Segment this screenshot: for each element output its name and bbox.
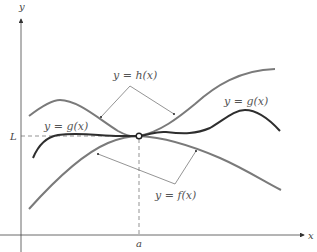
- h-leader-right: [130, 86, 174, 114]
- h-leader-left: [101, 86, 130, 117]
- squeeze-theorem-diagram: y x L a y = h(x) y = g(x) y = g(x) y = f…: [0, 0, 317, 252]
- g-curve-label-right: y = g(x): [223, 95, 268, 108]
- f-leader-left: [98, 154, 175, 184]
- g-curve-label-left: y = g(x): [43, 120, 88, 133]
- curve-g: [33, 110, 280, 158]
- limit-point-open-circle: [136, 133, 142, 139]
- y-axis-label: y: [18, 1, 25, 12]
- f-curve-label: y = f(x): [154, 189, 196, 202]
- x-axis-label: x: [308, 230, 314, 241]
- L-marker-label: L: [9, 131, 17, 142]
- h-curve-label: y = h(x): [112, 69, 157, 82]
- f-leader-right: [175, 151, 196, 184]
- a-marker-label: a: [136, 238, 142, 249]
